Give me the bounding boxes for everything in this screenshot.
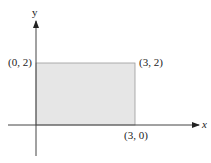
coordinate-diagram: y x (0, 2) (3, 2) (3, 0) xyxy=(0,0,211,163)
vertex-label-3-2: (3, 2) xyxy=(139,56,163,69)
x-axis-label: x xyxy=(201,118,207,130)
vertex-label-3-0: (3, 0) xyxy=(124,129,148,142)
y-axis-label: y xyxy=(32,6,38,18)
shaded-rectangle xyxy=(36,63,135,125)
vertex-label-0-2: (0, 2) xyxy=(8,56,32,69)
